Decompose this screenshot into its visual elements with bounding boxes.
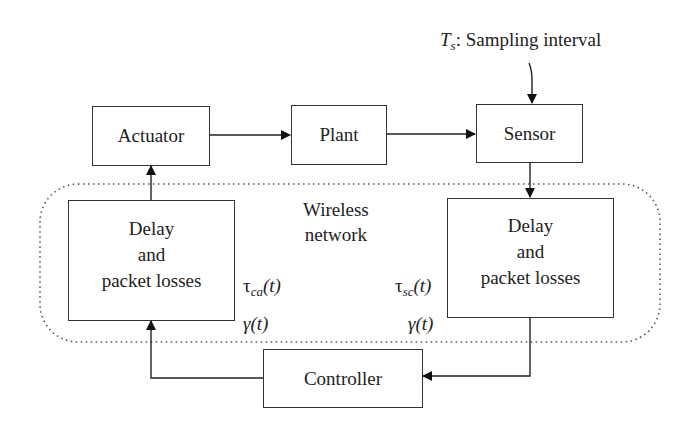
tau-ca-arg: (t) [263,275,281,296]
gamma-left-symbol: γ [243,313,251,334]
wireless-network-line1: Wireless [303,197,369,222]
gamma-left-arg: (t) [251,313,269,334]
tau-sc-symbol: τ [395,275,403,296]
delay-sc-line1: Delay [481,213,581,239]
wireless-network-label: Wireless network [303,197,369,247]
actuator-block: Actuator [92,106,210,166]
controller-label: Controller [304,366,382,392]
delay-ca-line3: packet losses [102,268,202,294]
delay-ca-line2: and [102,242,202,268]
delay-sc-text: Delay and packet losses [481,213,581,291]
arrow-sampling-to-sensor [529,63,532,103]
tau-ca-symbol: τ [243,275,251,296]
gamma-right-label: γ(t) [408,313,433,335]
tau-sc-label: τsc(t) [395,275,431,297]
actuator-label: Actuator [118,123,184,149]
plant-block: Plant [291,105,387,165]
wireless-network-line2: network [303,222,369,247]
sampling-interval-label: Ts: Sampling interval [440,29,601,51]
delay-sc-line3: packet losses [481,265,581,291]
gamma-right-arg: (t) [416,313,434,334]
delay-ca-line1: Delay [102,216,202,242]
sampling-symbol: T [440,29,451,50]
sensor-label: Sensor [504,121,556,147]
delay-sc-block: Delay and packet losses [447,198,614,318]
delay-ca-block: Delay and packet losses [68,200,235,321]
gamma-right-symbol: γ [408,313,416,334]
sampling-text: : Sampling interval [456,29,602,50]
sensor-block: Sensor [476,104,583,163]
tau-ca-label: τca(t) [243,275,281,297]
tau-sc-subscript: sc [403,284,414,299]
plant-label: Plant [319,122,358,148]
tau-ca-subscript: ca [251,284,263,299]
tau-sc-arg: (t) [413,275,431,296]
delay-sc-line2: and [481,239,581,265]
delay-ca-text: Delay and packet losses [102,216,202,294]
arrow-delay-to-controller [423,317,530,376]
controller-block: Controller [263,349,423,408]
gamma-left-label: γ(t) [243,313,268,335]
